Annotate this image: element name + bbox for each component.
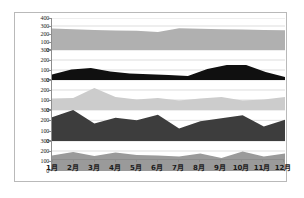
x-axis: 1月2月3月4月5月6月7月8月9月10月11月12月 <box>52 159 283 179</box>
panel-1-ytickmark-200 <box>48 34 51 35</box>
x-axis-label-2: 2月 <box>67 164 79 173</box>
panel-1-ytickmark-100 <box>48 42 51 43</box>
x-axis-tick-7 <box>178 159 179 162</box>
x-axis-label-3: 3月 <box>88 164 100 173</box>
x-axis-line <box>52 159 283 160</box>
x-axis-label-8: 8月 <box>193 164 205 173</box>
panel-4-area-series <box>52 110 285 141</box>
panel-2: 0100200300 <box>15 50 288 80</box>
x-axis-labels: 1月2月3月4月5月6月7月8月9月10月11月12月 <box>52 164 283 178</box>
panel-3-ytickmark-100 <box>48 100 51 101</box>
panel-3-ytickmark-200 <box>48 90 51 91</box>
panel-4: 0100200300 <box>15 110 288 141</box>
x-axis-label-1: 1月 <box>46 164 58 173</box>
panel-2-ytickmark-100 <box>48 70 51 71</box>
x-axis-tick-10 <box>241 159 242 162</box>
panel-2-y-axis: 0100200300 <box>15 50 51 80</box>
panel-1: 0100200300400 <box>15 18 288 50</box>
panel-1-ytickmark-400 <box>48 18 51 19</box>
x-axis-label-5: 5月 <box>130 164 142 173</box>
x-axis-label-7: 7月 <box>172 164 184 173</box>
x-axis-label-12: 12月 <box>275 164 292 173</box>
x-axis-tick-8 <box>199 159 200 162</box>
panel-4-ytickmark-200 <box>48 120 51 121</box>
panel-3: 0100200300 <box>15 80 288 110</box>
panel-4-ytickmark-300 <box>48 110 51 111</box>
panel-1-y-axis: 0100200300400 <box>15 18 51 50</box>
x-axis-label-10: 10月 <box>233 164 250 173</box>
panel-4-plot-area <box>52 110 285 141</box>
chart-frame: 0100200300400010020030001002003000100200… <box>14 12 287 182</box>
panel-2-ytickmark-200 <box>48 60 51 61</box>
x-axis-label-11: 11月 <box>254 164 271 173</box>
x-axis-tick-12 <box>283 159 284 162</box>
x-axis-tick-6 <box>157 159 158 162</box>
x-axis-tick-5 <box>136 159 137 162</box>
panel-2-ytickmark-300 <box>48 50 51 51</box>
panel-5-ytickmark-100 <box>48 161 51 162</box>
panel-3-area-series <box>52 88 285 110</box>
x-axis-tick-9 <box>220 159 221 162</box>
x-axis-tick-1 <box>52 159 53 162</box>
panel-3-plot-area <box>52 80 285 110</box>
panel-1-plot-area <box>52 18 285 50</box>
panel-4-y-axis: 0100200300 <box>15 110 51 141</box>
x-axis-label-9: 9月 <box>214 164 226 173</box>
panel-1-ytickmark-300 <box>48 26 51 27</box>
x-axis-tick-3 <box>94 159 95 162</box>
x-axis-tick-2 <box>73 159 74 162</box>
panel-stack: 0100200300400010020030001002003000100200… <box>15 13 288 183</box>
panel-2-plot-area <box>52 50 285 80</box>
x-axis-tick-4 <box>115 159 116 162</box>
panel-3-ytickmark-300 <box>48 80 51 81</box>
x-axis-label-6: 6月 <box>151 164 163 173</box>
x-axis-tick-11 <box>262 159 263 162</box>
panel-4-ytickmark-100 <box>48 131 51 132</box>
panel-1-area-series <box>52 28 285 50</box>
panel-2-area-series <box>52 65 285 80</box>
panel-3-y-axis: 0100200300 <box>15 80 51 110</box>
panel-5-ytickmark-300 <box>48 141 51 142</box>
x-axis-label-4: 4月 <box>109 164 121 173</box>
panel-5-ytickmark-200 <box>48 151 51 152</box>
